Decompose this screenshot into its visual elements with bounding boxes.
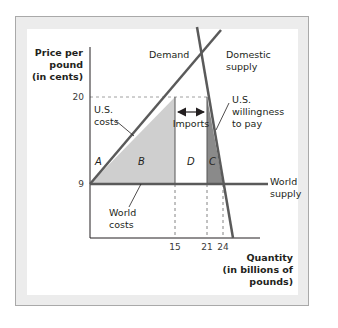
region-c-label: C (209, 156, 216, 167)
y-axis-title-line1: Price per (35, 47, 84, 58)
us-wtp-label-line1: U.S. (232, 94, 251, 105)
demand-label: Demand (149, 49, 189, 60)
world-costs-label-line1: World (109, 207, 136, 218)
world-costs-label-line2: costs (109, 219, 134, 230)
domestic-supply-label-line1: Domestic (226, 49, 271, 60)
us-wtp-leader (216, 103, 229, 130)
imports-label: Imports (173, 118, 210, 129)
domestic-supply-label-line2: supply (226, 61, 258, 72)
region-d-label: D (187, 156, 195, 167)
world-costs-leader (129, 184, 141, 207)
us-costs-label-line1: U.S. (94, 104, 113, 115)
us-costs-label-line2: costs (94, 116, 119, 127)
x-tick-21: 21 (201, 242, 212, 252)
world-supply-label-line2: supply (270, 188, 302, 199)
world-supply-label-line1: World (270, 176, 297, 187)
y-axis-title-line2: pound (49, 59, 83, 70)
x-axis-title-line3: pounds) (249, 276, 293, 287)
region-b-label: B (138, 156, 145, 167)
us-wtp-label-line2: willingness (232, 106, 284, 117)
x-axis-title-line1: Quantity (246, 252, 293, 263)
y-tick-9: 9 (78, 179, 84, 189)
import-surplus-chart: Price per pound (in cents) Quantity (in … (0, 0, 338, 328)
x-axis-title-line2: (in billions of (223, 264, 294, 275)
y-axis-title-line3: (in cents) (32, 71, 83, 82)
us-wtp-label-line3: to pay (232, 118, 262, 129)
y-tick-20: 20 (73, 92, 85, 102)
region-a-label: A (94, 156, 102, 167)
x-tick-15: 15 (169, 242, 180, 252)
x-tick-24: 24 (217, 242, 229, 252)
